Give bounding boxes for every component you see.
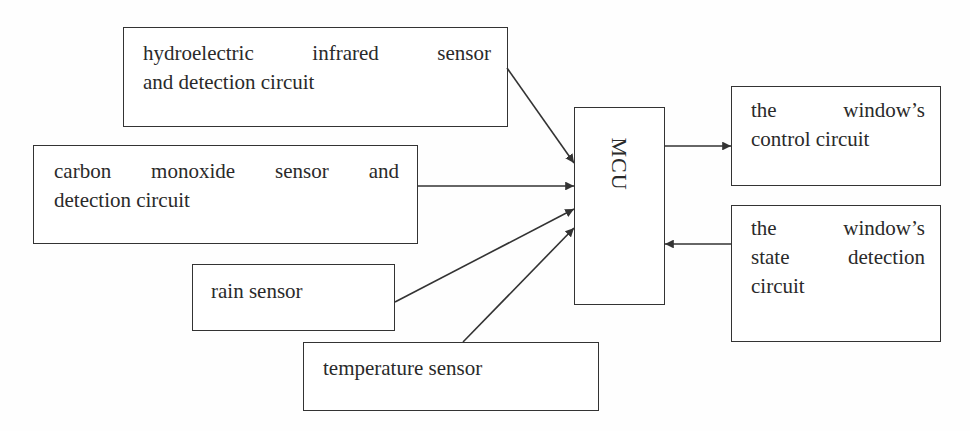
window-state-line-1: the window’s <box>751 214 925 243</box>
window-state-detection-text: the window’s state detection circuit <box>751 214 925 301</box>
temperature-sensor-text: temperature sensor <box>323 354 583 383</box>
hydroelectric-line-1: hydroelectric infrared sensor <box>143 39 491 68</box>
arrow-rain-to-mcu <box>395 209 574 302</box>
window-control-circuit-text: the window’s control circuit <box>751 96 925 154</box>
arrow-hydroelectric-to-mcu <box>507 68 574 163</box>
hydroelectric-infrared-sensor-text: hydroelectric infrared sensor and detect… <box>143 39 491 97</box>
rain-sensor-text: rain sensor <box>211 277 381 306</box>
window-control-line-2: control circuit <box>751 125 925 154</box>
window-state-line-2: state detection <box>751 243 925 272</box>
hydroelectric-line-2: and detection circuit <box>143 68 491 97</box>
carbon-monoxide-sensor-text: carbon monoxide sensor and detection cir… <box>54 157 399 215</box>
block-diagram: hydroelectric infrared sensor and detect… <box>0 0 970 431</box>
window-control-line-1: the window’s <box>751 96 925 125</box>
arrow-temperature-to-mcu <box>463 228 574 342</box>
rain-sensor-label: rain sensor <box>211 277 381 306</box>
window-state-line-3: circuit <box>751 272 925 301</box>
mcu-label: MCU <box>606 137 632 190</box>
carbon-monoxide-line-1: carbon monoxide sensor and <box>54 157 399 186</box>
carbon-monoxide-line-2: detection circuit <box>54 186 399 215</box>
temperature-sensor-label: temperature sensor <box>323 354 583 383</box>
